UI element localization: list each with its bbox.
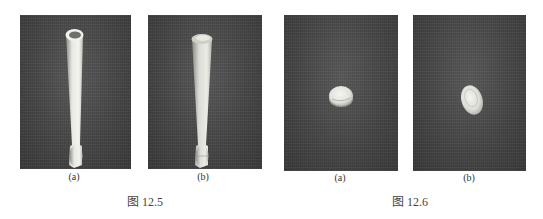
caption-12-6-a: (a) [320, 172, 360, 183]
specimen-rod-flat-fracture-image [148, 15, 262, 169]
figure-label-12-6: 图 12.6 [370, 192, 450, 210]
photo-12-5-b [148, 15, 262, 169]
caption-12-5-b: (b) [183, 171, 223, 182]
round-fracture-surface-image [284, 15, 398, 171]
photo-12-6-b [413, 15, 526, 171]
caption-12-5-a: (a) [54, 171, 94, 182]
oval-fracture-surface-image [413, 15, 526, 171]
photo-12-6-a [284, 15, 398, 171]
figure-label-12-5: 图 12.5 [105, 192, 185, 210]
caption-12-6-b: (b) [449, 172, 489, 183]
specimen-rod-cup-fracture-image [20, 15, 131, 169]
photo-12-5-a [20, 15, 131, 169]
